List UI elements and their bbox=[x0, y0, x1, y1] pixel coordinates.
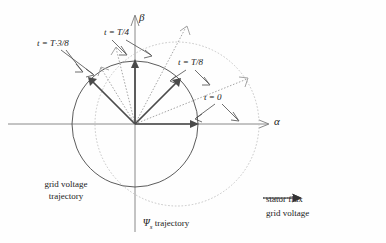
annotation-arrow-t0 bbox=[195, 104, 239, 122]
legend-item-grid-voltage: grid voltage bbox=[262, 206, 309, 220]
grid-voltage-trajectory-caption-line1: grid voltage bbox=[24, 178, 108, 190]
stator-flux-vectors bbox=[101, 27, 247, 124]
grid-voltage-arrowhead-t-T4 bbox=[131, 59, 139, 68]
grid-voltage-vector-t-T8 bbox=[135, 80, 179, 124]
grid-voltage-vectors bbox=[90, 61, 197, 124]
beta-axis-label: β bbox=[139, 11, 144, 23]
legend-label-grid-voltage: grid voltage bbox=[266, 208, 309, 218]
grid-voltage-trajectory-caption: grid voltage trajectory bbox=[24, 178, 108, 202]
legend-swatch-grid-voltage bbox=[262, 192, 308, 204]
stator-flux-arrowhead-t-T8 bbox=[180, 26, 190, 35]
flux-trajectory-symbol: Ψ bbox=[143, 217, 150, 228]
time-label-t-T4: t = T/4 bbox=[104, 27, 129, 37]
stator-flux-vector-t0 bbox=[135, 79, 247, 124]
grid-voltage-trajectory-caption-line2: trajectory bbox=[24, 190, 108, 202]
time-label-t-T8: t = T/8 bbox=[178, 57, 203, 67]
figure-canvas: α β t = 0 t = T/8 t = T/4 t = T·3/8 grid… bbox=[0, 0, 386, 243]
alpha-axis-label: α bbox=[274, 115, 280, 127]
vector-diagram bbox=[0, 0, 386, 243]
legend: stator flux grid voltage bbox=[262, 192, 309, 220]
time-label-t0: t = 0 bbox=[204, 92, 222, 102]
grid-voltage-vector-t-T38 bbox=[90, 79, 135, 124]
stator-flux-vector-t-T4 bbox=[116, 48, 135, 124]
flux-trajectory-caption: Ψs trajectory bbox=[122, 217, 210, 233]
annotation-arrow-t-T38 bbox=[61, 50, 94, 77]
time-label-t-T38: t = T·3/8 bbox=[37, 38, 69, 48]
flux-trajectory-rest: trajectory bbox=[153, 218, 190, 228]
